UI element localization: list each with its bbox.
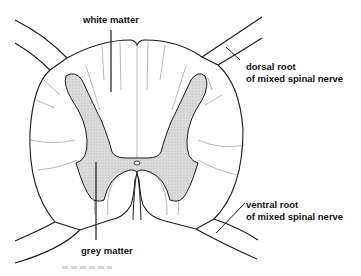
- ventral-root-label-line1: ventral root: [246, 199, 298, 211]
- ventral-median-fissure: [133, 172, 141, 220]
- white-matter-label: white matter: [83, 14, 139, 26]
- ventral-root-left: [15, 222, 80, 263]
- dorsal-root-left: [15, 20, 67, 70]
- grey-matter-label: grey matter: [81, 245, 133, 257]
- ventral-root-right: [196, 219, 258, 259]
- dorsal-root-label-line2: of mixed spinal nerve: [246, 73, 343, 85]
- spinal-cord-diagram: white matter grey matter dorsal root of …: [0, 0, 361, 276]
- ventral-root-leader: [216, 203, 245, 233]
- spinal-cord-cross-section: [0, 0, 361, 276]
- central-canal: [134, 161, 140, 165]
- ventral-root-label-line2: of mixed spinal nerve: [246, 211, 343, 223]
- dorsal-root-label-line1: dorsal root: [246, 61, 296, 73]
- dorsal-root-right: [202, 17, 262, 65]
- figure-caption-cropped: [62, 266, 112, 269]
